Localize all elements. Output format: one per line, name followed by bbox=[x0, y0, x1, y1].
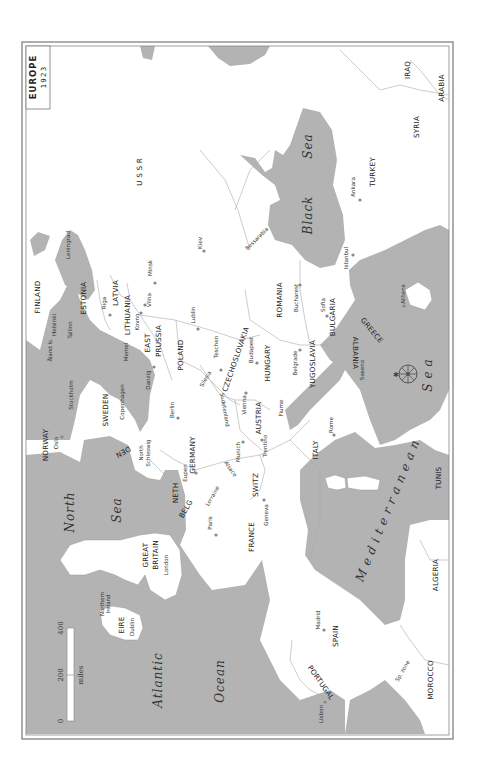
label-black-sea: Sea bbox=[301, 133, 315, 158]
svg-text:SPAIN: SPAIN bbox=[331, 625, 340, 647]
svg-text:London: London bbox=[163, 554, 169, 575]
svg-text:ARABIA: ARABIA bbox=[437, 74, 446, 102]
svg-text:NETH: NETH bbox=[171, 483, 180, 504]
svg-text:✱: ✱ bbox=[393, 371, 399, 379]
svg-text:Paris: Paris bbox=[207, 516, 213, 529]
svg-text:North: North bbox=[138, 445, 144, 460]
svg-text:Sofia: Sofia bbox=[320, 298, 326, 312]
svg-text:Stockholm: Stockholm bbox=[68, 380, 74, 409]
svg-text:LATVIA: LATVIA bbox=[111, 280, 120, 306]
svg-text:Helsinki: Helsinki bbox=[51, 314, 57, 336]
svg-text:Minsk: Minsk bbox=[147, 259, 153, 276]
svg-text:Rome: Rome bbox=[328, 416, 334, 433]
svg-text:Berlin: Berlin bbox=[169, 401, 175, 418]
svg-text:Copenhagen: Copenhagen bbox=[119, 384, 126, 420]
svg-text:Memel: Memel bbox=[123, 342, 129, 361]
svg-text:Teschen: Teschen bbox=[213, 335, 219, 359]
svg-text:EAST: EAST bbox=[143, 333, 152, 353]
svg-text:Kovno: Kovno bbox=[134, 313, 140, 331]
svg-text:HUNGARY: HUNGARY bbox=[263, 344, 272, 381]
svg-text:SYRIA: SYRIA bbox=[412, 116, 421, 138]
svg-text:Kiev: Kiev bbox=[197, 236, 203, 249]
svg-text:IRAQ: IRAQ bbox=[403, 61, 412, 79]
svg-text:Budapest: Budapest bbox=[248, 336, 255, 363]
svg-text:BULGARIA: BULGARIA bbox=[328, 298, 337, 336]
svg-text:Dublin: Dublin bbox=[129, 618, 135, 637]
svg-text:SWITZ: SWITZ bbox=[251, 473, 260, 497]
svg-text:Fiume: Fiume bbox=[278, 399, 284, 416]
svg-text:Vienna: Vienna bbox=[241, 395, 247, 414]
label-med-sea: Sea bbox=[421, 354, 435, 391]
svg-text:FINLAND: FINLAND bbox=[33, 280, 42, 313]
svg-text:EIRE: EIRE bbox=[117, 616, 126, 633]
svg-text:LITHUANIA: LITHUANIA bbox=[123, 295, 132, 335]
svg-text:YUGOSLAVIA: YUGOSLAVIA bbox=[308, 340, 317, 389]
svg-text:TUNIS: TUNIS bbox=[434, 466, 443, 490]
svg-text:AUSTRIA: AUSTRIA bbox=[254, 402, 263, 435]
svg-text:Ireland: Ireland bbox=[105, 595, 111, 614]
svg-text:Schleswig: Schleswig bbox=[145, 440, 152, 467]
label-black: Black bbox=[301, 196, 315, 236]
europe-1923-map: EUROPE 1923 0 200 400 miles ✱ North Sea … bbox=[0, 0, 478, 774]
svg-text:TURKEY: TURKEY bbox=[368, 157, 377, 188]
svg-text:PRUSSIA: PRUSSIA bbox=[154, 325, 163, 357]
label-north-sea-2: Sea bbox=[110, 497, 124, 522]
svg-text:Leningrad: Leningrad bbox=[65, 231, 72, 259]
svg-text:200: 200 bbox=[57, 668, 65, 681]
svg-text:Belgrade: Belgrade bbox=[292, 350, 299, 376]
svg-text:Munich: Munich bbox=[235, 442, 241, 463]
svg-text:BRITAIN: BRITAIN bbox=[151, 540, 160, 570]
label-atlantic: Atlantic bbox=[151, 652, 165, 708]
svg-text:Lublin: Lublin bbox=[190, 306, 196, 323]
svg-text:ITALY: ITALY bbox=[311, 440, 320, 460]
label-ocean: Ocean bbox=[213, 659, 227, 703]
svg-text:Vilna: Vilna bbox=[146, 293, 152, 307]
svg-text:Ankara: Ankara bbox=[350, 177, 356, 197]
svg-text:Oslo: Oslo bbox=[53, 436, 59, 449]
map-year: 1923 bbox=[40, 66, 48, 89]
svg-text:Åland Is.: Åland Is. bbox=[47, 338, 53, 361]
svg-text:Eupen: Eupen bbox=[182, 464, 189, 482]
svg-text:FRANCE: FRANCE bbox=[247, 522, 256, 552]
svg-text:400: 400 bbox=[57, 621, 65, 634]
map-title: EUROPE bbox=[28, 55, 38, 100]
svg-text:POLAND: POLAND bbox=[176, 339, 185, 370]
svg-text:MOROCCO: MOROCCO bbox=[426, 660, 435, 700]
svg-text:Bucharest: Bucharest bbox=[293, 283, 299, 312]
svg-text:Geneva: Geneva bbox=[263, 504, 269, 526]
svg-text:miles: miles bbox=[77, 665, 85, 684]
svg-text:ESTONIA: ESTONIA bbox=[79, 282, 88, 315]
svg-text:0: 0 bbox=[57, 719, 65, 723]
svg-text:ROMANIA: ROMANIA bbox=[275, 282, 284, 318]
svg-text:U S S R: U S S R bbox=[135, 158, 144, 186]
svg-text:GERMANY: GERMANY bbox=[188, 436, 197, 474]
svg-text:Athens: Athens bbox=[400, 284, 406, 303]
svg-text:ALGERIA: ALGERIA bbox=[431, 559, 440, 591]
svg-text:NORWAY: NORWAY bbox=[41, 428, 50, 461]
svg-text:Lisbon: Lisbon bbox=[318, 704, 324, 723]
svg-text:SWEDEN: SWEDEN bbox=[101, 394, 110, 427]
svg-text:GREAT: GREAT bbox=[141, 542, 150, 567]
svg-text:Riga: Riga bbox=[101, 297, 108, 309]
svg-text:Istanbul: Istanbul bbox=[343, 246, 349, 269]
svg-text:Tallinn: Tallinn bbox=[67, 321, 73, 340]
svg-text:Madrid: Madrid bbox=[315, 610, 321, 630]
svg-text:Trentino: Trentino bbox=[262, 434, 268, 458]
svg-text:Saseno: Saseno bbox=[359, 359, 365, 380]
svg-text:Danzig: Danzig bbox=[145, 370, 152, 390]
label-north-sea-1: North bbox=[63, 491, 77, 533]
